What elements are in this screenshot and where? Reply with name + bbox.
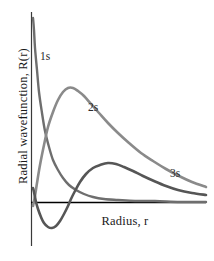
curve-label-1s: 1s [40, 50, 50, 62]
y-axis-label: Radial wavefunction, R(r) [16, 16, 32, 216]
curve-label-3s: 3s [170, 167, 180, 179]
radial-wavefunction-figure: Radial wavefunction, R(r) Radius, r 1s 2… [0, 0, 214, 261]
curve-2s [33, 88, 206, 206]
x-axis-label: Radius, r [70, 214, 180, 229]
x-axis-label-text: Radius, r [102, 214, 149, 228]
y-axis-label-text: Radial wavefunction, R(r) [16, 48, 30, 184]
curve-label-2s: 2s [88, 101, 98, 113]
